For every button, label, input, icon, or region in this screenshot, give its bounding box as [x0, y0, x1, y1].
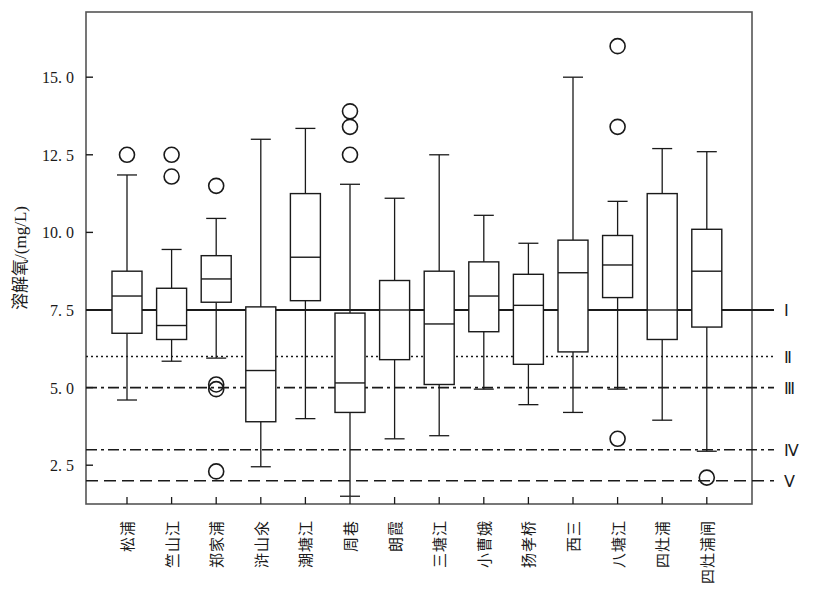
- x-axis-category-label-7: 朗霞: [387, 520, 404, 552]
- box-iqr: [290, 194, 320, 301]
- y-axis-tick-label: 12. 5: [42, 147, 74, 164]
- x-axis-category-label-14: 四灶浦闸: [699, 520, 716, 584]
- y-axis-tick-label: 2. 5: [50, 457, 74, 474]
- box-iqr: [380, 281, 410, 360]
- box-iqr: [112, 271, 142, 333]
- reference-line-label-Ⅱ: Ⅱ: [784, 349, 792, 366]
- chart-canvas: 2. 55. 07. 510. 012. 515. 0溶解氧/(mg/L)ⅠⅡⅢ…: [0, 0, 835, 602]
- x-axis-category-label-3: 郑家浦: [208, 520, 225, 568]
- reference-line-label-Ⅰ: Ⅰ: [784, 302, 789, 319]
- box-iqr: [603, 235, 633, 297]
- x-axis-category-label-2: 竺山江: [164, 520, 181, 568]
- box-iqr: [647, 194, 677, 340]
- y-axis-tick-label: 10. 0: [42, 224, 74, 241]
- x-axis-category-label-5: 潮塘江: [297, 520, 314, 568]
- box-iqr: [513, 274, 543, 364]
- y-axis-tick-label: 5. 0: [50, 380, 74, 397]
- x-axis-category-label-6: 周巷: [342, 520, 359, 552]
- boxplot-chart: 2. 55. 07. 510. 012. 515. 0溶解氧/(mg/L)ⅠⅡⅢ…: [0, 0, 835, 602]
- reference-line-label-Ⅴ: Ⅴ: [784, 473, 795, 490]
- x-axis-category-label-8: 三塘江: [431, 520, 448, 568]
- x-axis-category-label-13: 四灶浦: [654, 520, 671, 568]
- box-iqr: [246, 307, 276, 422]
- reference-line-label-Ⅳ: Ⅳ: [784, 442, 799, 459]
- box-iqr: [469, 262, 499, 332]
- x-axis-category-label-11: 西三: [565, 520, 582, 552]
- box-iqr: [558, 240, 588, 352]
- box-iqr: [335, 313, 365, 412]
- y-axis-tick-label: 15. 0: [42, 69, 74, 86]
- y-axis-title: 溶解氧/(mg/L): [11, 206, 30, 310]
- x-axis-category-label-1: 松浦: [119, 520, 136, 552]
- x-axis-category-label-9: 小曹娥: [476, 520, 493, 568]
- box-iqr: [424, 271, 454, 384]
- x-axis-category-label-12: 八塘江: [610, 520, 627, 568]
- y-axis-tick-label: 7. 5: [50, 302, 74, 319]
- reference-line-label-Ⅲ: Ⅲ: [784, 380, 795, 397]
- x-axis-category-label-10: 扬孝桥: [520, 520, 537, 568]
- x-axis-category-label-4: 浒山氽: [253, 520, 270, 568]
- box-iqr: [692, 229, 722, 327]
- box-iqr: [157, 288, 187, 339]
